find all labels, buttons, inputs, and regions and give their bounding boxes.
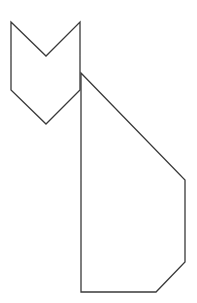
cat-figure: [0, 0, 197, 303]
cat-body-shape: [81, 73, 185, 292]
cat-head-shape: [11, 22, 80, 124]
